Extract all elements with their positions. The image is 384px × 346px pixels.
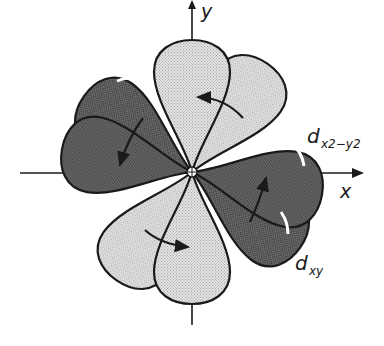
lobes: [55, 40, 328, 304]
x-axis-arrowhead: [352, 168, 364, 178]
orbital-diagram: y x d x2−y2 d xy: [0, 0, 384, 346]
y-axis-label: y: [200, 0, 213, 22]
svg-text:xy: xy: [308, 264, 324, 278]
x-axis-label: x: [339, 180, 352, 202]
orbital-label-dxy: d xy: [295, 251, 324, 278]
orbital-label-dx2-y2: d x2−y2: [307, 124, 361, 151]
svg-text:x2−y2: x2−y2: [320, 137, 361, 151]
svg-text:d: d: [307, 124, 320, 148]
highlight: [117, 78, 144, 81]
y-axis-arrowhead: [188, 0, 196, 9]
svg-text:d: d: [295, 251, 308, 275]
